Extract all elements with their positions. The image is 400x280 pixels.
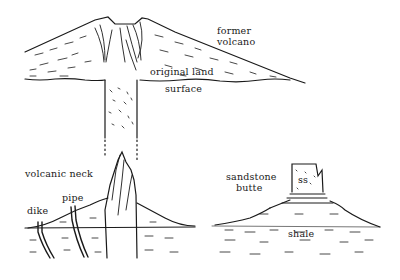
label-volcanic-neck: volcanic neck [25,168,93,179]
label-shale: shale [288,228,314,239]
label-pipe: pipe [62,192,84,203]
label-former-volcano-2: volcano [217,36,255,47]
label-butte: butte [236,182,262,193]
label-ss: ss [298,174,308,185]
label-former-volcano-1: former [217,25,251,36]
label-original-land: original land [150,66,214,77]
label-sandstone: sandstone [226,171,277,182]
diagram-canvas [0,0,400,280]
label-dike: dike [27,205,48,216]
label-surface: surface [165,83,202,94]
